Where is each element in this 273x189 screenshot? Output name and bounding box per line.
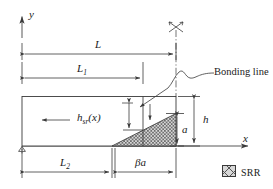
dimension-label-beta-a: βa bbox=[135, 157, 146, 168]
bonding-line-callout-label: Bonding line bbox=[214, 66, 269, 77]
h-sr-suffix: (x) bbox=[88, 111, 100, 123]
x-axis-label: x bbox=[243, 133, 248, 144]
legend-label-srr: SRR bbox=[241, 167, 261, 178]
dimension-label-L1-sub: 1 bbox=[83, 68, 87, 77]
dimension-h bbox=[178, 97, 200, 147]
dimension-label-L1: L1 bbox=[77, 63, 87, 77]
dimension-label-a: a bbox=[182, 124, 188, 135]
figure-canvas: y x L L1 L2 βa h a hsr(x) Bonding line S… bbox=[0, 0, 273, 189]
dimension-label-h-sr: hsr(x) bbox=[77, 112, 101, 126]
legend-swatch-srr bbox=[222, 165, 236, 177]
dimension-label-L2: L2 bbox=[60, 157, 70, 171]
dimension-label-L2-sub: 2 bbox=[66, 162, 70, 171]
y-axis-label: y bbox=[29, 9, 34, 20]
dimension-label-L: L bbox=[95, 39, 101, 50]
dimension-label-h: h bbox=[203, 114, 209, 125]
